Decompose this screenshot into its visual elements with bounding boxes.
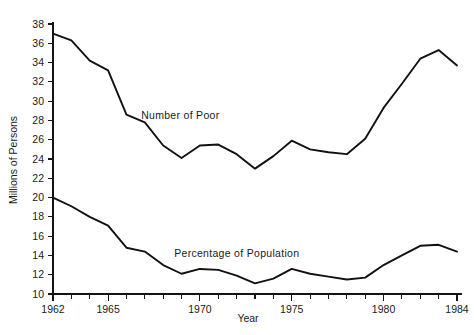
- x-tick-label: 1984: [445, 303, 469, 315]
- x-tick-label: 1970: [188, 303, 212, 315]
- y-tick-label: 22: [32, 172, 44, 184]
- y-axis-tick-labels: 101214161820222426283032343638: [32, 18, 44, 300]
- x-axis-ticks: [53, 294, 457, 301]
- x-tick-label: 1975: [280, 303, 304, 315]
- y-tick-label: 30: [32, 95, 44, 107]
- y-tick-label: 20: [32, 191, 44, 203]
- y-tick-label: 32: [32, 75, 44, 87]
- x-tick-label: 1980: [372, 303, 396, 315]
- y-tick-label: 10: [32, 288, 44, 300]
- y-tick-label: 18: [32, 210, 44, 222]
- series-line-percentage-of-population: [53, 198, 457, 284]
- y-tick-label: 26: [32, 133, 44, 145]
- y-axis-ticks: [48, 24, 53, 294]
- y-tick-label: 12: [32, 268, 44, 280]
- series-line-number-of-poor: [53, 34, 457, 169]
- plot-area: 101214161820222426283032343638 196219651…: [32, 18, 469, 315]
- y-axis-title: Millions of Persons: [7, 116, 19, 204]
- chart-canvas: 101214161820222426283032343638 196219651…: [0, 0, 474, 335]
- series-annotations: Number of PoorPercentage of Population: [141, 109, 299, 259]
- x-axis-title: Year: [237, 312, 259, 324]
- series-label-percentage-of-population: Percentage of Population: [174, 247, 299, 259]
- y-tick-label: 14: [32, 249, 44, 261]
- x-tick-label: 1962: [41, 303, 65, 315]
- y-tick-label: 24: [32, 153, 44, 165]
- y-tick-label: 34: [32, 56, 44, 68]
- y-tick-label: 38: [32, 18, 44, 30]
- poverty-line-chart: 101214161820222426283032343638 196219651…: [0, 0, 474, 335]
- y-tick-label: 36: [32, 37, 44, 49]
- data-series-group: [53, 34, 457, 284]
- y-tick-label: 16: [32, 230, 44, 242]
- x-tick-label: 1965: [96, 303, 120, 315]
- series-label-number-of-poor: Number of Poor: [141, 109, 220, 121]
- y-tick-label: 28: [32, 114, 44, 126]
